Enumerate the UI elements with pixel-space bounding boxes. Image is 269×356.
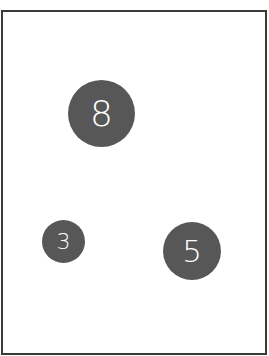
game-board — [1, 10, 267, 355]
ball-label: 8 — [90, 96, 113, 132]
ball-label: 5 — [182, 236, 202, 267]
number-ball-3[interactable]: 3 — [42, 220, 85, 263]
ball-label: 3 — [57, 231, 71, 253]
number-ball-5[interactable]: 5 — [163, 222, 221, 280]
number-ball-8[interactable]: 8 — [68, 80, 135, 147]
